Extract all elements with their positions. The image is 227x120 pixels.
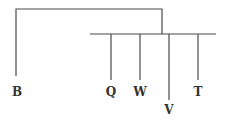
leaf-label-b: B [12, 85, 22, 99]
leaf-label-w: W [132, 85, 147, 99]
leaf-label-q: Q [106, 85, 116, 99]
leaf-label-t: T [194, 85, 203, 99]
tree-diagram: B Q W V T [0, 0, 227, 120]
leaf-label-v: V [163, 103, 174, 117]
